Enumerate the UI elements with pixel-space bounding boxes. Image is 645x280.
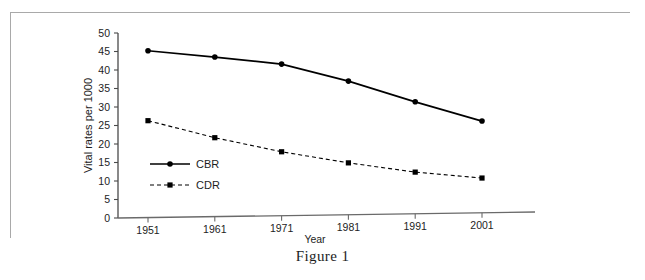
data-point-marker[interactable] <box>346 160 351 165</box>
y-axis-tick-label: 35 <box>98 82 110 94</box>
figure-container: 0510152025303540455019511961197119811991… <box>0 0 645 280</box>
data-point-marker[interactable] <box>145 48 151 54</box>
y-axis-tick-label: 25 <box>98 119 110 131</box>
series-cdr <box>145 118 484 181</box>
legend-item-cbr[interactable]: CBR <box>150 158 219 170</box>
y-axis-tick-label: 5 <box>104 193 110 205</box>
data-point-marker[interactable] <box>145 118 150 123</box>
legend-item-cdr[interactable]: CDR <box>150 179 220 191</box>
x-axis-tick-label: 1961 <box>203 223 227 235</box>
y-axis-tick-label: 30 <box>98 101 110 113</box>
data-point-marker[interactable] <box>212 54 218 60</box>
legend-marker <box>167 182 172 187</box>
x-axis-tick-label: 2001 <box>470 219 494 231</box>
series-cbr <box>145 48 485 124</box>
legend-label: CBR <box>196 158 219 170</box>
data-point-marker[interactable] <box>479 118 485 124</box>
x-axis-tick-label: 1971 <box>270 222 294 234</box>
legend-label: CDR <box>196 179 220 191</box>
y-axis-tick-label: 45 <box>98 45 110 57</box>
x-axis-line <box>118 212 535 218</box>
y-axis-tick-label: 20 <box>98 138 110 150</box>
legend-marker <box>167 161 173 167</box>
y-axis-tick-label: 50 <box>98 27 110 39</box>
x-axis-tick-label: 1991 <box>404 220 428 232</box>
y-axis-tick-label: 40 <box>98 64 110 76</box>
y-axis-tick-label: 0 <box>104 212 110 224</box>
data-point-marker[interactable] <box>412 99 418 105</box>
data-point-marker[interactable] <box>212 135 217 140</box>
y-axis-title: Vital rates per 1000 <box>82 78 94 173</box>
x-axis-tick-label: 1981 <box>337 221 361 233</box>
series-line-cbr <box>148 51 482 121</box>
y-axis-tick-label: 10 <box>98 175 110 187</box>
chart-canvas: 0510152025303540455019511961197119811991… <box>0 0 645 245</box>
data-point-marker[interactable] <box>413 170 418 175</box>
y-axis-tick-label: 15 <box>98 156 110 168</box>
data-point-marker[interactable] <box>346 78 352 84</box>
x-axis-title: Year <box>304 233 326 245</box>
data-point-marker[interactable] <box>279 149 284 154</box>
data-point-marker[interactable] <box>479 175 484 180</box>
x-axis-tick-label: 1951 <box>136 224 160 236</box>
data-point-marker[interactable] <box>279 61 285 67</box>
figure-caption: Figure 1 <box>0 248 645 265</box>
